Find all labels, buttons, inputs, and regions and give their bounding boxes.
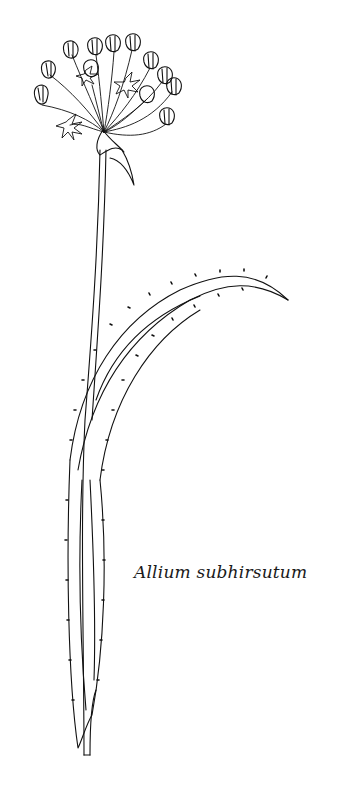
spathe-bract (97, 130, 134, 185)
plant-illustration (0, 0, 337, 796)
open-flowers (56, 66, 140, 140)
species-caption: Allium subhirsutum (134, 562, 307, 582)
hairy-leaf (68, 276, 288, 748)
leaf-hairs (65, 269, 267, 700)
